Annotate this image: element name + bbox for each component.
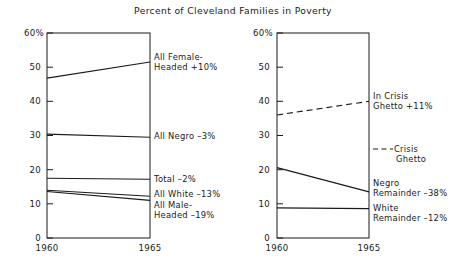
- series-label-line1: Negro: [373, 178, 399, 188]
- series-label-all-negro: All Negro –3%: [154, 131, 216, 141]
- series-label-total: Total –2%: [154, 174, 196, 184]
- left-xtick-1960: 1960: [28, 243, 66, 253]
- right-xtick-1965: 1965: [350, 243, 388, 253]
- series-label-line1: All White –13%: [154, 189, 220, 199]
- series-label-line2: Headed +10%: [154, 62, 217, 72]
- series-label-line2: Ghetto +11%: [373, 101, 433, 111]
- right-ytick-30: 30: [233, 130, 270, 140]
- line-white-remainder: [277, 208, 369, 209]
- left-ytick-50: 50: [4, 62, 41, 72]
- figure: Percent of Cleveland Families in Poverty: [0, 0, 466, 269]
- series-label-all-white: All White –13%: [154, 189, 220, 199]
- line-total: [47, 178, 150, 179]
- series-label-in-crisis-ghetto: In Crisis Ghetto +11%: [373, 91, 433, 112]
- series-label-line2: Remainder –38%: [373, 188, 447, 198]
- right-ytick-40: 40: [233, 96, 270, 106]
- series-label-all-male-headed: All Male- Headed –19%: [154, 200, 215, 221]
- series-label-white-remainder: White Remainder –12%: [373, 203, 447, 224]
- line-in-crisis-ghetto: [277, 101, 369, 115]
- series-label-line1: All Negro –3%: [154, 131, 216, 141]
- series-label-line1: In Crisis: [373, 91, 408, 101]
- series-label-line1: All Male-: [154, 200, 192, 210]
- left-ytick-10: 10: [4, 199, 41, 209]
- right-ytick-0: 0: [233, 233, 270, 243]
- right-axes-frame: [277, 33, 369, 238]
- line-all-female-headed: [47, 62, 150, 78]
- right-chart-panel: 60% 50 40 30 20 10 0 1960 1965 In Crisis…: [233, 0, 466, 269]
- left-chart-panel: 60% 50 40 30 20 10 0 1960 1965 All Femal…: [0, 0, 233, 269]
- series-label-negro-remainder: Negro Remainder –38%: [373, 178, 447, 199]
- right-ytick-60: 60%: [233, 28, 273, 38]
- left-ytick-20: 20: [4, 165, 41, 175]
- left-series-lines: [47, 62, 150, 200]
- line-all-negro: [47, 134, 150, 137]
- legend-label-line2: Ghetto: [394, 154, 426, 164]
- legend-entry-crisis-ghetto: Crisis Ghetto: [394, 144, 426, 165]
- left-y-tick-marks: [47, 33, 53, 238]
- series-label-line2: Headed –19%: [154, 210, 215, 220]
- left-ytick-60: 60%: [4, 28, 44, 38]
- series-label-line1: All Female-: [154, 52, 203, 62]
- line-negro-remainder: [277, 168, 369, 192]
- left-ytick-30: 30: [4, 130, 41, 140]
- left-xtick-1965: 1965: [131, 243, 169, 253]
- left-ytick-0: 0: [4, 233, 41, 243]
- series-label-all-female-headed: All Female- Headed +10%: [154, 52, 217, 73]
- right-ytick-50: 50: [233, 62, 270, 72]
- series-label-line2: Remainder –12%: [373, 213, 447, 223]
- right-series-lines: [277, 101, 369, 208]
- left-ytick-40: 40: [4, 96, 41, 106]
- right-ytick-20: 20: [233, 165, 270, 175]
- right-y-tick-marks: [277, 33, 283, 238]
- right-ytick-10: 10: [233, 199, 270, 209]
- series-label-line1: White: [373, 203, 399, 213]
- legend-label-line1: Crisis: [394, 144, 418, 154]
- series-label-line1: Total –2%: [154, 174, 196, 184]
- right-xtick-1960: 1960: [258, 243, 296, 253]
